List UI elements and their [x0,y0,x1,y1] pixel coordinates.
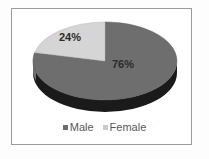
pie-plot-area: 24% 76% [0,0,209,159]
pie-3d-graphic [0,0,209,159]
pie-chart-figure: 24% 76% Male Female [0,0,209,159]
legend-swatch-icon-female [103,125,108,130]
legend-label-male: Male [70,122,94,133]
legend-item-female[interactable]: Female [103,122,147,133]
pie-data-label-female: 24% [59,31,81,43]
legend-item-male[interactable]: Male [63,122,94,133]
legend-label-female: Female [110,122,147,133]
pie-data-label-male: 76% [112,58,134,70]
chart-legend: Male Female [0,122,209,133]
legend-swatch-icon-male [63,125,68,130]
